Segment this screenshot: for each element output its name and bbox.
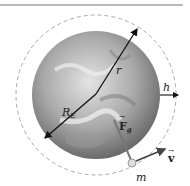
mass-label: m bbox=[136, 171, 146, 184]
velocity-vector-hat: → bbox=[168, 147, 174, 155]
velocity-arrow bbox=[136, 149, 165, 161]
gravity-vector-hat: → bbox=[119, 113, 125, 121]
earth-orbit-diagram: r RE h Fg → v → m bbox=[0, 0, 190, 186]
earth bbox=[32, 31, 160, 159]
r-label: r bbox=[116, 64, 122, 77]
altitude-label: h bbox=[163, 81, 170, 94]
mass-object bbox=[128, 159, 136, 167]
